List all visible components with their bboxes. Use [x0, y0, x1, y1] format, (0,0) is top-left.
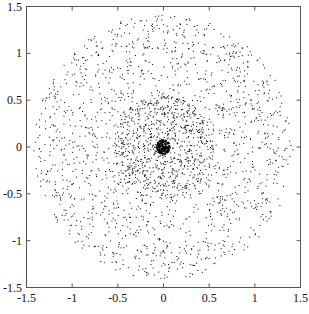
data-point — [196, 30, 197, 31]
data-point — [142, 102, 143, 103]
data-point — [223, 230, 224, 231]
data-point — [192, 121, 193, 122]
data-point — [260, 225, 261, 226]
data-point — [110, 120, 111, 121]
data-point — [116, 208, 117, 209]
data-point — [243, 143, 244, 144]
data-point — [163, 193, 164, 194]
data-point — [237, 92, 238, 93]
data-point — [133, 43, 134, 44]
data-point — [146, 272, 147, 273]
data-point — [153, 227, 154, 228]
data-point — [250, 100, 251, 101]
data-point — [190, 264, 191, 265]
data-point — [64, 210, 65, 211]
data-point — [73, 159, 74, 160]
data-point — [154, 112, 155, 113]
data-point — [172, 112, 173, 113]
data-point — [176, 33, 177, 34]
data-point — [135, 114, 136, 115]
data-point — [233, 78, 234, 79]
data-point — [164, 151, 165, 152]
data-point — [270, 211, 271, 212]
data-point — [72, 216, 73, 217]
data-point — [117, 34, 118, 35]
data-point — [177, 105, 178, 106]
y-tick-label: -1.5 — [3, 281, 22, 295]
data-point — [224, 135, 225, 136]
data-point — [89, 218, 90, 219]
data-point — [187, 151, 188, 152]
data-point — [134, 149, 135, 150]
data-point — [286, 159, 287, 160]
data-point — [186, 120, 187, 121]
data-point — [81, 226, 82, 227]
data-point — [96, 159, 97, 160]
data-point — [191, 133, 192, 134]
data-point — [160, 152, 161, 153]
data-point — [121, 93, 122, 94]
data-point — [107, 133, 108, 134]
data-point — [120, 123, 121, 124]
data-point — [227, 216, 228, 217]
data-point — [56, 145, 57, 146]
data-point — [40, 186, 41, 187]
data-point — [129, 44, 130, 45]
data-point — [69, 144, 70, 145]
data-point — [160, 185, 161, 186]
data-point — [59, 204, 60, 205]
data-point — [210, 152, 211, 153]
data-point — [86, 69, 87, 70]
data-point — [123, 142, 124, 143]
data-point — [74, 74, 75, 75]
data-point — [151, 73, 152, 74]
data-point — [163, 190, 164, 191]
data-point — [47, 180, 48, 181]
data-point — [162, 155, 163, 156]
data-point — [233, 44, 234, 45]
data-point — [162, 173, 163, 174]
data-point — [127, 155, 128, 156]
data-point — [135, 171, 136, 172]
data-point — [105, 100, 106, 101]
data-point — [123, 152, 124, 153]
data-point — [162, 146, 163, 147]
data-point — [198, 79, 199, 80]
data-point — [150, 177, 151, 178]
data-point — [180, 264, 181, 265]
data-point — [211, 224, 212, 225]
data-point — [158, 146, 159, 147]
data-point — [263, 64, 264, 65]
data-point — [143, 171, 144, 172]
data-point — [252, 108, 253, 109]
data-point — [206, 159, 207, 160]
x-tick-label: 1.5 — [293, 291, 308, 305]
data-point — [205, 169, 206, 170]
data-point — [213, 149, 214, 150]
data-point — [274, 152, 275, 153]
data-point — [101, 202, 102, 203]
data-point — [184, 37, 185, 38]
data-point — [126, 148, 127, 149]
data-point — [108, 103, 109, 104]
data-point — [129, 33, 130, 34]
data-point — [161, 75, 162, 76]
data-point — [137, 250, 138, 251]
data-point — [166, 97, 167, 98]
data-point — [181, 189, 182, 190]
data-point — [197, 168, 198, 169]
data-point — [151, 137, 152, 138]
data-point — [141, 128, 142, 129]
data-point — [202, 190, 203, 191]
data-point — [162, 110, 163, 111]
data-point — [267, 84, 268, 85]
data-point — [136, 103, 137, 104]
data-point — [125, 122, 126, 123]
data-point — [88, 128, 89, 129]
data-point — [143, 187, 144, 188]
data-point — [113, 177, 114, 178]
data-point — [206, 140, 207, 141]
data-point — [185, 133, 186, 134]
data-point — [148, 41, 149, 42]
data-point — [190, 254, 191, 255]
